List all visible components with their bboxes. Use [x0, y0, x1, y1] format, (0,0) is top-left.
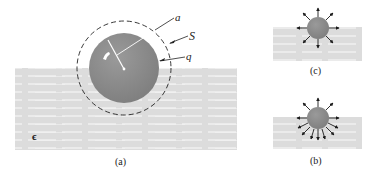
label-s: S: [189, 29, 195, 43]
caption-c: (c): [310, 65, 321, 77]
label-epsilon: ϵ: [32, 130, 37, 142]
panel-c: (c): [273, 8, 362, 77]
figure: a S q ϵ (a) (c): [0, 0, 377, 175]
caption-b: (b): [310, 155, 322, 167]
caption-a: (a): [115, 156, 126, 168]
panel-a: a S q ϵ (a): [15, 11, 237, 168]
label-a: a: [175, 11, 181, 23]
sphere-c: [307, 17, 329, 39]
panel-b: (b): [273, 98, 362, 167]
label-q: q: [186, 50, 192, 62]
sphere-b: [307, 107, 329, 129]
